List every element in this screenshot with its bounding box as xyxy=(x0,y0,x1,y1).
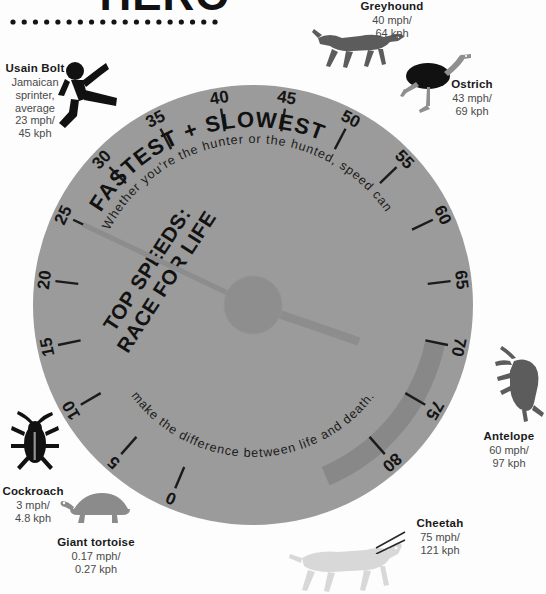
callout-name: Cockroach xyxy=(0,485,66,499)
tortoise-icon xyxy=(60,487,134,527)
page-title: HERO xyxy=(0,0,330,20)
callout-cockroach: Cockroach 3 mph/ 4.8 kph xyxy=(0,485,66,525)
cockroach-icon xyxy=(8,410,62,474)
cheetah-leader-lines xyxy=(375,528,415,554)
dial-graphic: 05101520253035404550556065707580 TOP SPE… xyxy=(33,85,473,525)
callout-mph: 60 mph/ xyxy=(474,444,544,457)
callout-mph: 3 mph/ xyxy=(0,499,66,512)
callout-kph: 97 kph xyxy=(474,457,544,470)
callout-name: Antelope xyxy=(474,430,544,444)
callout-name: Giant tortoise xyxy=(34,536,158,550)
callout-kph: 64 kph xyxy=(340,27,444,40)
callout-kph: 4.8 kph xyxy=(0,512,66,525)
speedometer-dial[interactable]: 05101520253035404550556065707580 TOP SPE… xyxy=(33,85,473,525)
dial-tick-label: 45 xyxy=(276,87,298,109)
callout-desc: Jamaican sprinter, average xyxy=(2,76,68,115)
dial-hub xyxy=(224,276,282,334)
callout-name: Usain Bolt xyxy=(2,62,68,76)
callout-name: Greyhound xyxy=(340,0,444,14)
callout-usain-bolt: Usain Bolt Jamaican sprinter, average 23… xyxy=(2,62,68,140)
dotted-divider xyxy=(10,18,218,26)
callout-ostrich: Ostrich 43 mph/ 69 kph xyxy=(432,78,512,118)
callout-name: Ostrich xyxy=(432,78,512,92)
dial-tick-label: 15 xyxy=(36,336,58,358)
callout-giant-tortoise: Giant tortoise 0.17 mph/ 0.27 kph xyxy=(34,536,158,576)
callout-mph: 23 mph/ xyxy=(2,114,68,127)
callout-antelope: Antelope 60 mph/ 97 kph xyxy=(474,430,544,470)
callout-kph: 0.27 kph xyxy=(34,563,158,576)
callout-mph: 40 mph/ xyxy=(340,14,444,27)
infographic-canvas: HERO 05101520253035404550556065707580 TO… xyxy=(0,0,546,594)
dial-tick-label: 40 xyxy=(208,87,230,109)
callout-kph: 45 kph xyxy=(2,127,68,140)
callout-mph: 43 mph/ xyxy=(432,92,512,105)
callout-greyhound: Greyhound 40 mph/ 64 kph xyxy=(340,0,444,40)
dial-tick-label: 65 xyxy=(451,269,472,290)
callout-mph: 0.17 mph/ xyxy=(34,550,158,563)
callout-kph: 69 kph xyxy=(432,105,512,118)
antelope-icon xyxy=(490,345,546,423)
dial-tick-label: 70 xyxy=(448,336,470,358)
dial-tick-label: 20 xyxy=(34,269,55,290)
